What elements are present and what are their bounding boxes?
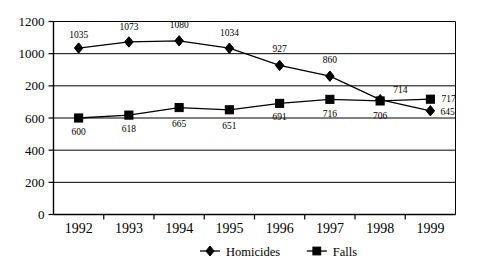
- data-label: 1073: [119, 22, 138, 32]
- data-label: 1080: [170, 20, 189, 30]
- x-tick-label: 1992: [65, 221, 93, 236]
- data-label: 714: [393, 85, 408, 95]
- square-marker: [125, 111, 133, 119]
- data-label: 717: [441, 94, 456, 104]
- data-label: 706: [373, 111, 388, 121]
- data-label: 716: [323, 109, 338, 119]
- data-label: 645: [440, 107, 455, 117]
- y-tick-label: 0: [38, 207, 45, 222]
- x-tick-label: 1997: [316, 221, 344, 236]
- x-tick-label: 1993: [115, 221, 143, 236]
- square-marker: [225, 106, 233, 114]
- y-tick-label: 600: [25, 111, 45, 126]
- data-label: 665: [172, 119, 187, 129]
- square-marker: [376, 97, 384, 105]
- y-tick-label: 400: [25, 143, 45, 158]
- y-tick-label: 200: [25, 175, 45, 190]
- data-label: 860: [323, 55, 338, 65]
- y-tick-label: 1000: [19, 46, 45, 61]
- legend-label: Homicides: [226, 245, 280, 259]
- x-tick-label: 1996: [266, 221, 294, 236]
- data-label: 1035: [69, 30, 88, 40]
- data-label: 1034: [220, 28, 239, 38]
- data-label: 618: [122, 124, 137, 134]
- square-marker: [75, 114, 83, 122]
- square-marker: [326, 95, 334, 103]
- x-tick-label: 1995: [215, 221, 243, 236]
- data-label: 651: [222, 121, 237, 131]
- square-marker: [426, 95, 434, 103]
- legend-label: Falls: [333, 245, 357, 259]
- data-label: 600: [72, 127, 87, 137]
- square-marker: [313, 247, 321, 255]
- square-marker: [276, 99, 284, 107]
- x-tick-label: 1999: [416, 221, 444, 236]
- data-label: 927: [273, 44, 288, 54]
- x-tick-label: 1998: [366, 221, 394, 236]
- y-tick-label: 1200: [19, 14, 45, 29]
- chart-container: 020040060020010001200 199219931994199519…: [0, 0, 483, 269]
- x-tick-label: 1994: [165, 221, 193, 236]
- y-tick-label: 200: [25, 78, 45, 93]
- square-marker: [175, 103, 183, 111]
- data-label: 691: [273, 112, 288, 122]
- line-chart: 020040060020010001200 199219931994199519…: [0, 0, 483, 269]
